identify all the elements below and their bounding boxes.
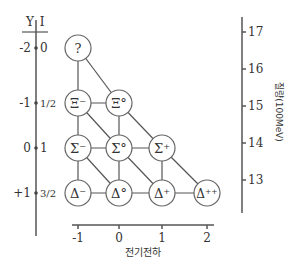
hypercharge-label: 0 — [23, 141, 31, 155]
particle-label: Δ⁻ — [70, 186, 86, 201]
isospin-label: 1/2 — [40, 98, 56, 109]
right-tick-label: 15 — [248, 99, 263, 113]
hypercharge-label: +1 — [13, 186, 31, 200]
right-tick-label: 14 — [248, 136, 264, 150]
particle-node: Ξ⁻ — [65, 90, 91, 116]
particle-label: Σ⁻ — [70, 141, 86, 156]
particle-node: Δ⁺⁺ — [194, 180, 220, 206]
particle-node: Ξ° — [106, 90, 132, 116]
particle-label: Ξ⁻ — [70, 96, 86, 111]
connection-lines — [78, 48, 207, 193]
particle-label: ? — [75, 41, 82, 56]
header-i: I — [40, 15, 45, 29]
particle-node: Δ⁻ — [65, 180, 91, 206]
left-axis-dot — [34, 146, 38, 150]
bottom-tick-label: 1 — [158, 231, 166, 245]
particle-label: Δ⁺⁺ — [196, 187, 217, 201]
right-axis: 1716151413 질량(100MeV) — [242, 17, 285, 213]
particle-label: Δ⁺ — [154, 186, 170, 201]
left-axis: Y I -20-11/201+13/2 — [13, 15, 56, 236]
particle-nodes: ?Ξ⁻Ξ°Σ⁻Σ°Σ⁺Δ⁻Δ°Δ⁺Δ⁺⁺ — [65, 35, 220, 206]
particle-node: ? — [65, 35, 91, 61]
particle-node: Δ⁺ — [149, 180, 175, 206]
left-axis-dot — [34, 101, 38, 105]
bottom-axis-label: 전기전하 — [125, 246, 161, 258]
particle-node: Σ° — [106, 135, 132, 161]
right-tick-label: 13 — [248, 173, 263, 187]
right-tick-label: 16 — [248, 62, 263, 76]
left-axis-dot — [34, 191, 38, 195]
bottom-tick-label: 2 — [203, 231, 211, 245]
bottom-tick-label: -1 — [72, 231, 84, 245]
left-axis-dot — [34, 46, 38, 50]
baryon-decuplet-diagram: Y I -20-11/201+13/2 ?Ξ⁻Ξ°Σ⁻Σ°Σ⁺Δ⁻Δ°Δ⁺Δ⁺⁺… — [0, 0, 298, 275]
bottom-tick-label: 0 — [115, 231, 123, 245]
hypercharge-label: -2 — [19, 41, 31, 55]
right-axis-label: 질량(100MeV) — [274, 82, 285, 142]
particle-label: Σ° — [111, 141, 127, 156]
particle-label: Σ⁺ — [154, 141, 170, 156]
hypercharge-label: -1 — [19, 96, 31, 110]
particle-node: Σ⁻ — [65, 135, 91, 161]
particle-node: Σ⁺ — [149, 135, 175, 161]
particle-label: Ξ° — [111, 96, 127, 111]
isospin-label: 0 — [40, 41, 48, 55]
right-tick-label: 17 — [248, 25, 263, 39]
isospin-label: 1 — [40, 141, 48, 155]
bottom-axis: -1012 전기전하 — [72, 225, 214, 258]
particle-node: Δ° — [106, 180, 132, 206]
isospin-label: 3/2 — [40, 188, 56, 199]
particle-label: Δ° — [111, 186, 127, 201]
header-y: Y — [25, 15, 35, 29]
